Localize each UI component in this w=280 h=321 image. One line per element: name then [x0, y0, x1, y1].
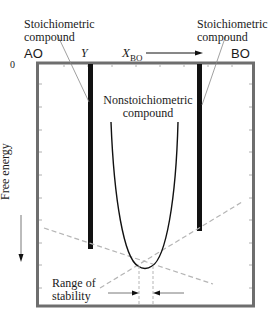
free-energy-arrow — [19, 215, 24, 262]
leader-line-left — [57, 34, 89, 102]
stoichiometric-bar-right — [197, 64, 202, 231]
nonstoichiometric-label: Nonstoichiometric compound — [98, 94, 198, 120]
stoichiometric-label-right: Stoichiometric compound — [197, 18, 268, 44]
x-axis-arrow — [146, 51, 203, 56]
x-bo-label: XBO — [122, 46, 142, 65]
stoichiometric-bar-left — [88, 64, 93, 249]
x-symbol: X — [122, 45, 130, 60]
ao-label: AO — [24, 47, 43, 60]
range-of-stability-label: Range of stability — [52, 277, 96, 303]
label-line: compound — [24, 31, 95, 44]
x-subscript: BO — [130, 53, 143, 63]
leader-line-right — [202, 35, 226, 105]
label-line: compound — [197, 31, 268, 44]
gamma-label: Y — [81, 47, 88, 60]
free-energy-curve — [111, 122, 178, 269]
free-energy-axis-label: Free energy — [0, 143, 13, 200]
label-line: stability — [52, 290, 96, 303]
bo-label: BO — [231, 47, 250, 60]
label-line: compound — [98, 107, 198, 120]
origin-label: 0 — [10, 58, 15, 71]
range-arrows — [108, 291, 184, 296]
stoichiometric-label-left: Stoichiometric compound — [24, 18, 95, 44]
